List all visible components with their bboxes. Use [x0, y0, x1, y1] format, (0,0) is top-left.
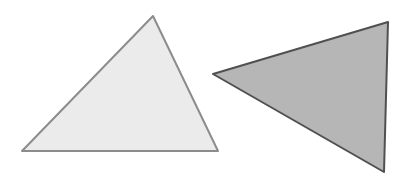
dark-triangle: [213, 22, 388, 172]
diagram-canvas: [0, 0, 414, 181]
light-triangle: [22, 16, 218, 151]
